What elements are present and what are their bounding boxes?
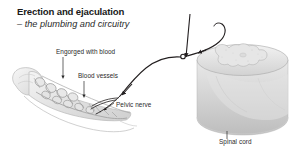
pelvic-nerve-arrow — [122, 84, 132, 95]
penis-cross-section — [13, 68, 137, 132]
label-spinal-cord: Spinal cord — [219, 138, 252, 146]
page-subtitle: – the plumbing and circuitry — [17, 18, 197, 30]
label-blood-vessels: Blood vessels — [78, 72, 118, 80]
page-title: Erection and ejaculation — [17, 6, 197, 18]
anatomy-figure: Erection and ejaculation – the plumbing … — [0, 0, 289, 165]
label-engorged-with-blood: Engorged with blood — [56, 48, 115, 56]
nerve-junction-node — [181, 54, 186, 59]
efferent-nerve-line — [120, 57, 181, 96]
label-pelvic-nerve: Pelvic nerve — [116, 101, 151, 109]
spinal-cord-block — [197, 44, 288, 135]
figure-heading: Erection and ejaculation – the plumbing … — [17, 6, 197, 30]
